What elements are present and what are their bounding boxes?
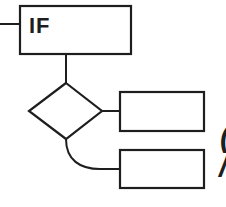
decision-to-false-connector	[66, 139, 120, 169]
if-block-label: IF	[29, 15, 51, 37]
branch-true-box	[120, 92, 204, 131]
clipped-glyph-top: (	[220, 122, 226, 152]
branch-false-box	[120, 150, 204, 188]
decision-diamond	[29, 83, 102, 139]
clipped-glyph-bottom: /	[219, 152, 226, 182]
